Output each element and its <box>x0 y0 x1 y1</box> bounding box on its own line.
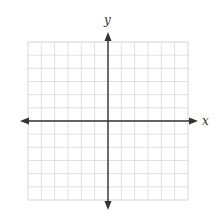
axes <box>20 32 198 210</box>
x-axis-arrow-right-icon <box>189 118 198 125</box>
coordinate-plane: x y <box>0 0 218 223</box>
y-axis-arrow-up-icon <box>105 32 112 41</box>
x-axis-label: x <box>202 114 209 128</box>
x-axis-arrow-left-icon <box>20 118 29 125</box>
y-axis-arrow-down-icon <box>105 201 112 210</box>
y-axis-label: y <box>103 13 111 27</box>
